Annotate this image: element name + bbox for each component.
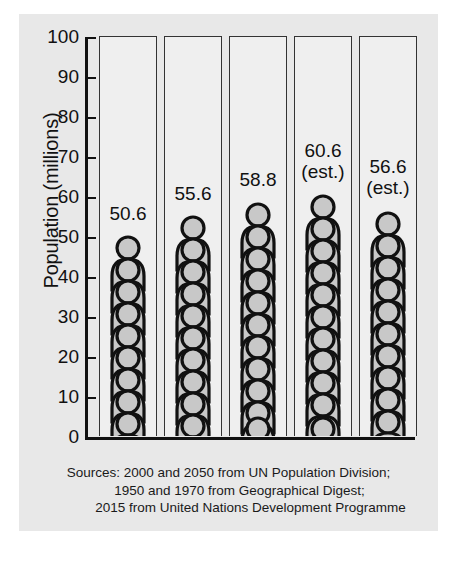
sources-note: Sources: 2000 and 2050 from UN Populatio… [19,464,438,517]
x-axis-line [85,437,415,440]
bar-1950 [105,234,151,436]
y-tick-label-20: 20 [58,346,79,368]
bar-note-2015: (est.) [301,161,344,182]
y-tick-label-50: 50 [58,226,79,248]
pictogram-stack-1970 [170,214,216,436]
sources-line-2: 1950 and 1970 from Geographical Digest; [19,482,438,500]
bar-2000 [235,201,281,436]
y-tick-label-100: 100 [47,26,79,48]
y-tick-label-70: 70 [58,146,79,168]
y-tick-label-0: 0 [68,426,79,448]
y-tick-label-60: 60 [58,186,79,208]
y-tick-label-90: 90 [58,66,79,88]
plot-area: 100 90 80 70 60 50 40 30 [85,37,415,439]
pictogram-stack-1950 [105,234,151,436]
sources-line-1: Sources: 2000 and 2050 from UN Populatio… [19,464,438,482]
bar-value-1970: 55.6 [175,183,212,204]
pictogram-stack-2050 [365,210,411,436]
chart-figure: Population (millions) 100 90 80 70 60 50 [19,14,438,531]
bar-value-2000: 58.8 [240,169,277,190]
y-tick-label-80: 80 [58,106,79,128]
sources-line-3: 2015 from United Nations Development Pro… [19,499,438,517]
bar-value-2050: 56.6 (est.) [366,156,409,198]
y-tick-label-40: 40 [58,266,79,288]
bar-note-2050: (est.) [366,177,409,198]
bar-2050 [365,210,411,436]
pictogram-stack-2000 [235,201,281,436]
bar-1970 [170,214,216,436]
y-tick-label-10: 10 [58,386,79,408]
bar-value-2015: 60.6 (est.) [301,140,344,182]
bar-value-1950: 50.6 [110,203,147,224]
bar-2015 [300,193,346,436]
y-tick-label-30: 30 [58,306,79,328]
pictogram-stack-2015 [300,193,346,436]
